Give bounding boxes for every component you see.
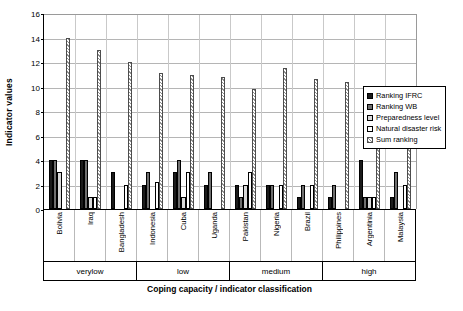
bar [314,79,318,209]
classification-label: verylow [43,262,137,280]
legend-swatch [367,93,373,99]
category-label-cell: Philippines [323,210,354,261]
y-axis-title: Indicator values [2,52,16,172]
y-tick-label: 2 [36,181,40,190]
y-tick-label: 4 [36,157,40,166]
category-label: Bolivia [55,212,64,234]
bar [270,185,274,210]
bar-group [230,14,261,209]
y-tick-label: 6 [36,132,40,141]
bar [128,62,132,209]
category-label-strip: BoliviaIraqBangladeshIndonesiaCubaUganda… [43,210,416,262]
y-tick-label: 0 [36,206,40,215]
category-label-cell: Iraq [75,210,106,261]
legend-item[interactable]: Ranking WB [367,101,441,112]
legend-label: Preparedness level [376,113,439,122]
bar-group [75,14,106,209]
bar [190,75,194,209]
category-label: Pakistan [241,212,250,241]
bar [221,77,225,209]
legend-swatch [367,115,373,121]
category-label-cell: Bangladesh [106,210,137,261]
category-label-cell: Malaysia [385,210,416,261]
y-tick-label: 8 [36,108,40,117]
legend: Ranking IFRCRanking WBPreparedness level… [363,86,446,149]
category-label: Iraq [86,212,95,225]
category-label: Argentinia [365,212,374,246]
category-label-cell: Pakistan [230,210,261,261]
bar [301,185,305,210]
bar [66,38,70,210]
bar [97,50,101,209]
x-axis-title: Coping capacity / indicator classificati… [43,284,416,294]
bar-groups [44,14,416,209]
legend-swatch [367,104,373,110]
legend-label: Sum ranking [376,135,418,144]
legend-item[interactable]: Sum ranking [367,134,441,145]
category-label: Uganda [210,212,219,239]
legend-swatch [367,137,373,143]
classification-label: low [137,262,230,280]
y-tick-label: 16 [31,10,40,19]
category-label-cell: Indonesia [137,210,168,261]
legend-label: Ranking WB [376,102,417,111]
category-label: Brazil [303,212,312,231]
category-label: Nigeria [272,212,281,236]
category-label-cell: Uganda [199,210,230,261]
bar [394,172,398,209]
classification-label: medium [230,262,323,280]
bar-group [261,14,292,209]
bar [111,172,115,209]
bar [283,68,287,209]
legend-item[interactable]: Natural disaster risk [367,123,441,134]
legend-item[interactable]: Ranking IFRC [367,90,441,101]
y-tick-label: 10 [31,83,40,92]
bar [252,89,256,209]
bar [345,82,349,209]
bar-chart: Indicator values 0246810121416 BoliviaIr… [0,0,463,311]
bar-group [137,14,168,209]
category-label: Indonesia [148,212,157,245]
legend-label: Natural disaster risk [376,124,441,133]
bar [57,172,61,209]
category-label: Malaysia [396,212,405,242]
bar [332,185,336,210]
category-label-cell: Cuba [168,210,199,261]
bar-group [44,14,75,209]
bar-group [292,14,323,209]
category-label-cell: Bolivia [43,210,75,261]
y-tick-label: 12 [31,59,40,68]
bar [146,172,150,209]
classification-strip: verylowlowmediumhigh [43,262,416,281]
bar-group [106,14,137,209]
plot-area: 0246810121416 [43,14,416,210]
category-label: Bangladesh [117,212,126,252]
legend-label: Ranking IFRC [376,91,422,100]
legend-swatch [367,126,373,132]
bar-group [168,14,199,209]
category-label: Cuba [179,212,188,230]
category-label-cell: Argentinia [354,210,385,261]
category-label-cell: Nigeria [261,210,292,261]
bar-group [199,14,230,209]
category-label: Philippines [334,212,343,249]
legend-item[interactable]: Preparedness level [367,112,441,123]
bar [159,73,163,209]
category-label-cell: Brazil [292,210,323,261]
classification-label: high [323,262,416,280]
bar [208,172,212,209]
bar-group [323,14,354,209]
y-tick-label: 14 [31,34,40,43]
